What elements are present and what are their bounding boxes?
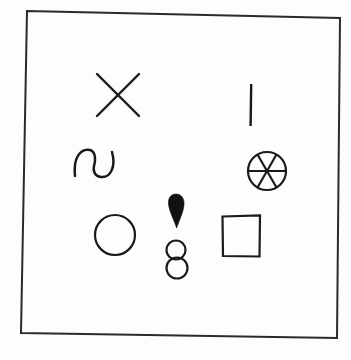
figure-canvas: Hand-drawn symbol plate A rectangular ha…: [0, 0, 351, 360]
vertical-stroke-icon: [251, 84, 252, 126]
symbol-plate-drawing: [0, 0, 351, 360]
paper-background: [0, 0, 351, 360]
vertical-stroke-path: [251, 84, 252, 126]
